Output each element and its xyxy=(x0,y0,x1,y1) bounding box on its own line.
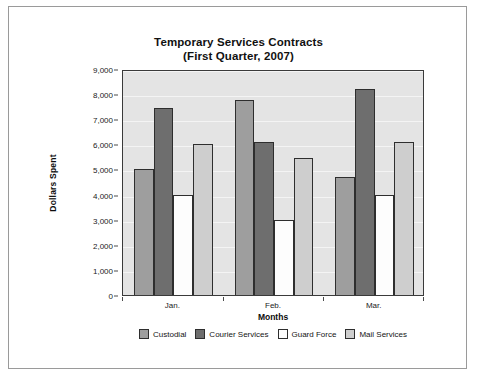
bar xyxy=(335,177,355,295)
legend-label: Custodial xyxy=(153,330,186,339)
bar xyxy=(394,142,414,295)
bar xyxy=(355,89,375,295)
bar-group xyxy=(335,71,414,295)
chart-figure: Temporary Services Contracts (First Quar… xyxy=(8,6,467,369)
y-axis-tick-label: 3,000 xyxy=(93,216,113,225)
y-axis-tick-mark xyxy=(114,195,118,196)
y-axis-tick-mark xyxy=(114,95,118,96)
bar xyxy=(154,108,174,295)
x-axis-tick-label: Feb. xyxy=(265,301,281,310)
bar-groups xyxy=(123,71,423,295)
y-axis-tick-mark xyxy=(114,270,118,271)
y-axis-tick-label: 6,000 xyxy=(93,141,113,150)
y-axis-tick-label: 8,000 xyxy=(93,91,113,100)
y-axis-tick-label: 7,000 xyxy=(93,116,113,125)
legend-item[interactable]: Mail Services xyxy=(345,329,407,339)
x-axis-tick-mark xyxy=(423,297,424,301)
chart-legend: CustodialCourier ServicesGuard ForceMail… xyxy=(122,329,424,339)
x-axis-tick-mark xyxy=(323,297,324,301)
y-axis-tick-label: 4,000 xyxy=(93,191,113,200)
bar-group xyxy=(134,71,213,295)
chart-subtitle: (First Quarter, 2007) xyxy=(9,49,468,63)
y-axis-ticks: 01,0002,0003,0004,0005,0006,0007,0008,00… xyxy=(69,70,118,296)
bar xyxy=(254,142,274,295)
bar xyxy=(235,100,255,295)
bar xyxy=(173,195,193,295)
y-axis-tick-label: 9,000 xyxy=(93,66,113,75)
legend-swatch xyxy=(195,329,205,339)
x-axis-tick-mark xyxy=(122,297,123,301)
chart-title-main: Temporary Services Contracts xyxy=(9,35,468,49)
x-axis-label: Months xyxy=(122,312,424,322)
chart-title: Temporary Services Contracts (First Quar… xyxy=(9,35,468,63)
legend-item[interactable]: Guard Force xyxy=(278,329,337,339)
y-axis-tick-mark xyxy=(114,120,118,121)
x-axis-tick-mark xyxy=(223,297,224,301)
legend-label: Guard Force xyxy=(292,330,337,339)
legend-swatch xyxy=(345,329,355,339)
y-axis-tick-mark xyxy=(114,170,118,171)
y-axis-label: Dollars Spent xyxy=(45,70,61,296)
bar xyxy=(294,158,314,295)
y-axis-tick-label: 5,000 xyxy=(93,166,113,175)
legend-label: Mail Services xyxy=(359,330,407,339)
legend-swatch xyxy=(139,329,149,339)
y-axis-tick-label: 0 xyxy=(109,292,113,301)
y-axis-tick-label: 1,000 xyxy=(93,266,113,275)
x-axis-ticks: Jan.Feb.Mar. xyxy=(122,297,424,313)
plot-area xyxy=(122,70,424,296)
y-axis-tick-mark xyxy=(114,70,118,71)
bar xyxy=(375,195,395,295)
x-axis-tick-label: Mar. xyxy=(366,301,382,310)
bar xyxy=(274,220,294,295)
legend-swatch xyxy=(278,329,288,339)
y-axis-tick-mark xyxy=(114,296,118,297)
legend-item[interactable]: Custodial xyxy=(139,329,186,339)
bar xyxy=(134,169,154,295)
y-axis-tick-mark xyxy=(114,220,118,221)
legend-label: Courier Services xyxy=(209,330,268,339)
legend-item[interactable]: Courier Services xyxy=(195,329,268,339)
bar xyxy=(193,144,213,295)
y-axis-tick-label: 2,000 xyxy=(93,241,113,250)
y-axis-tick-mark xyxy=(114,245,118,246)
x-axis-tick-label: Jan. xyxy=(165,301,180,310)
bar-group xyxy=(235,71,314,295)
y-axis-tick-mark xyxy=(114,145,118,146)
